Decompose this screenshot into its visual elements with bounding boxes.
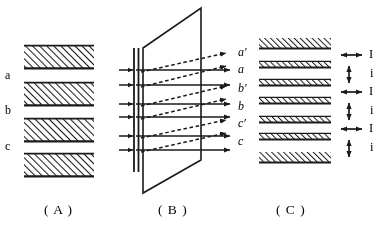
panel-c-measure-label-I-2: I bbox=[369, 85, 373, 98]
panel-c-graphics bbox=[259, 38, 362, 163]
panel-b-incident-rays bbox=[119, 70, 133, 150]
panel-b-graphics bbox=[119, 8, 230, 193]
panel-c-bar bbox=[259, 79, 331, 86]
panel-c-measure-label-i-3: i bbox=[370, 141, 373, 154]
panel-a-bar bbox=[24, 118, 94, 142]
panel-c-bar bbox=[259, 97, 331, 104]
panel-b-ray-label-c-prime: c′ bbox=[238, 117, 246, 129]
panel-c-bar bbox=[259, 116, 331, 123]
panel-a-label-a: a bbox=[5, 69, 10, 81]
panel-c-bar bbox=[259, 133, 331, 140]
panel-b-ray-label-c: c bbox=[238, 135, 243, 147]
panel-a-bar bbox=[24, 45, 94, 69]
panel-b-diffracted-rays bbox=[141, 53, 226, 152]
panel-b-caption: ( B ) bbox=[158, 203, 188, 217]
panel-a-label-c: c bbox=[5, 140, 10, 152]
panel-b-ray-label-a-prime: a′ bbox=[238, 46, 247, 58]
panel-a-graphics bbox=[24, 45, 94, 177]
panel-c-bar bbox=[259, 38, 331, 49]
panel-b-slit bbox=[134, 48, 139, 172]
panel-b-transmitted-rays bbox=[136, 70, 230, 150]
panel-c-measure-label-I-3: I bbox=[369, 122, 373, 135]
figure-canvas bbox=[0, 0, 382, 233]
panel-c-measure-label-i-1: i bbox=[370, 67, 373, 80]
panel-c-bar bbox=[259, 152, 331, 163]
panel-c-measure-label-i-2: i bbox=[370, 104, 373, 117]
panel-b-plane bbox=[143, 8, 201, 193]
panel-b-ray-label-b: b bbox=[238, 100, 244, 112]
panel-a-label-b: b bbox=[5, 104, 11, 116]
panel-c-caption: ( C ) bbox=[276, 203, 306, 217]
figure-root: a b c a′ a b′ b c′ c I i I i I i ( A ) (… bbox=[0, 0, 382, 233]
panel-a-caption: ( A ) bbox=[44, 203, 73, 217]
panel-c-measure-label-I-1: I bbox=[369, 48, 373, 61]
panel-b-ray-label-a: a bbox=[238, 63, 244, 75]
panel-a-bar bbox=[24, 82, 94, 106]
panel-c-measure-arrows bbox=[341, 55, 362, 157]
panel-c-bar bbox=[259, 61, 331, 68]
panel-b-ray-label-b-prime: b′ bbox=[238, 82, 247, 94]
panel-a-bar bbox=[24, 153, 94, 177]
